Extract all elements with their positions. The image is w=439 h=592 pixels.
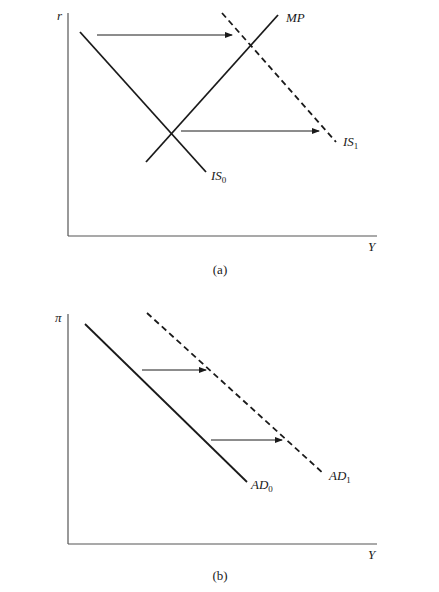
panel-a-caption: (a)	[213, 262, 227, 277]
diagram-canvas: r Y IS0 IS1 MP (a) π Y AD0	[0, 0, 439, 592]
panel-a-axes	[68, 13, 377, 236]
panel-b-caption: (b)	[212, 568, 227, 583]
panel-a-x-axis-label: Y	[368, 239, 377, 254]
ad0-label: AD0	[250, 477, 273, 494]
panel-b-y-axis-label: π	[55, 310, 62, 325]
panel-b-axes	[68, 314, 377, 544]
panel-a-y-axis-label: r	[57, 8, 63, 23]
mp-label: MP	[285, 10, 305, 25]
panel-b: π Y AD0 AD1 (b)	[55, 310, 377, 583]
is0-label: IS0	[210, 168, 227, 185]
ad1-curve	[147, 313, 324, 474]
mp-curve	[146, 15, 278, 162]
panel-b-x-axis-label: Y	[368, 547, 377, 562]
ad1-label: AD1	[328, 468, 351, 485]
panel-a: r Y IS0 IS1 MP (a)	[57, 8, 377, 277]
is1-label: IS1	[342, 134, 358, 151]
ad0-curve	[85, 324, 247, 482]
is0-curve	[80, 32, 206, 172]
is1-curve	[222, 13, 336, 142]
